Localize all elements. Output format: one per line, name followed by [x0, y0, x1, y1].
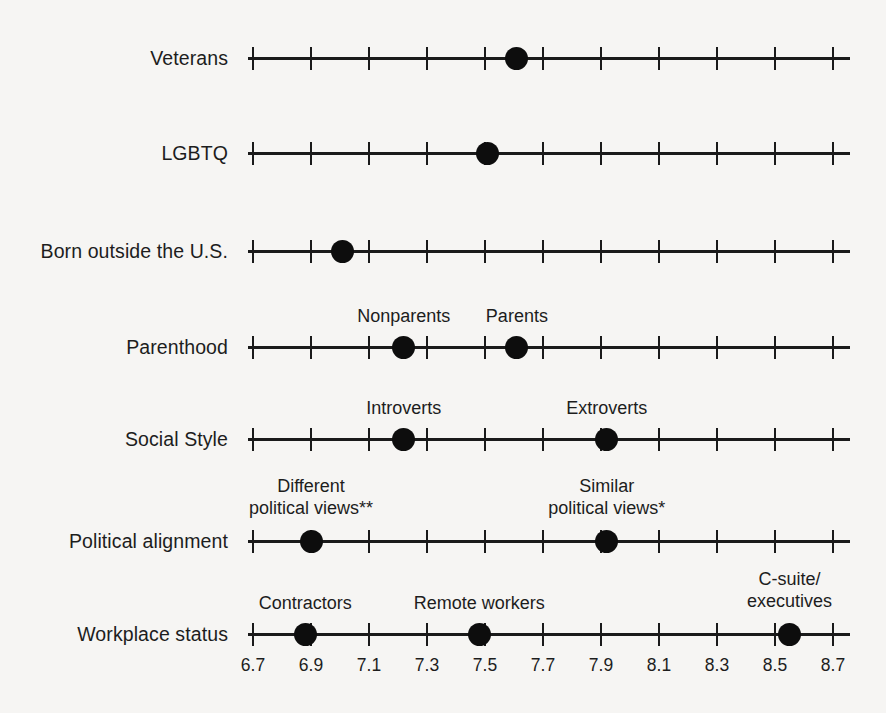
data-point-label-line1: Different — [277, 476, 345, 496]
x-tick-label: 8.3 — [705, 655, 729, 676]
axis-tick — [774, 428, 777, 451]
row-axis-line — [248, 438, 850, 441]
data-point-marker[interactable] — [331, 240, 354, 263]
axis-tick — [832, 142, 835, 165]
axis-tick — [484, 428, 487, 451]
x-tick-label: 7.7 — [531, 655, 555, 676]
axis-tick — [832, 47, 835, 70]
row-axis-line — [248, 57, 850, 60]
axis-tick — [310, 336, 313, 359]
axis-tick — [716, 142, 719, 165]
axis-tick — [600, 47, 603, 70]
axis-tick — [774, 142, 777, 165]
x-tick-label: 7.1 — [357, 655, 381, 676]
data-point-label-line1: Contractors — [259, 593, 352, 613]
x-tick-label: 8.5 — [763, 655, 787, 676]
axis-tick — [368, 623, 371, 646]
axis-tick — [658, 428, 661, 451]
axis-tick — [658, 623, 661, 646]
axis-tick — [716, 428, 719, 451]
axis-tick — [716, 530, 719, 553]
data-point-label-line1: C-suite/ — [758, 569, 820, 589]
data-point-marker[interactable] — [300, 530, 323, 553]
axis-tick — [368, 530, 371, 553]
data-point-marker[interactable] — [505, 336, 528, 359]
axis-tick — [252, 530, 255, 553]
axis-tick — [310, 142, 313, 165]
axis-tick — [484, 47, 487, 70]
data-point-label-line2: political views* — [548, 497, 665, 519]
data-point-label-line1: Extroverts — [566, 398, 647, 418]
axis-tick — [716, 240, 719, 263]
data-point-marker[interactable] — [595, 530, 618, 553]
axis-tick — [658, 47, 661, 70]
axis-tick — [252, 47, 255, 70]
data-point-marker[interactable] — [392, 336, 415, 359]
data-point-label: Parents — [486, 305, 548, 327]
axis-tick — [600, 623, 603, 646]
axis-tick — [368, 336, 371, 359]
axis-tick — [832, 336, 835, 359]
data-point-marker[interactable] — [392, 428, 415, 451]
axis-tick — [658, 240, 661, 263]
row-label-social-style: Social Style — [125, 428, 228, 451]
x-tick-label: 7.9 — [589, 655, 613, 676]
axis-tick — [542, 47, 545, 70]
data-point-label: Similarpolitical views* — [548, 475, 665, 519]
row-axis-line — [248, 540, 850, 543]
axis-tick — [600, 336, 603, 359]
axis-tick — [600, 240, 603, 263]
axis-tick — [774, 336, 777, 359]
row-label-lgbtq: LGBTQ — [161, 142, 228, 165]
data-point-label-line1: Remote workers — [414, 593, 545, 613]
data-point-label-line2: executives — [747, 590, 832, 612]
axis-tick — [774, 623, 777, 646]
data-point-label: Remote workers — [414, 592, 545, 614]
data-point-label: C-suite/executives — [747, 568, 832, 612]
axis-tick — [368, 428, 371, 451]
axis-tick — [832, 530, 835, 553]
axis-tick — [542, 336, 545, 359]
axis-tick — [368, 240, 371, 263]
axis-tick — [252, 623, 255, 646]
x-tick-label: 8.7 — [821, 655, 845, 676]
row-axis-line — [248, 346, 850, 349]
data-point-label-line1: Introverts — [366, 398, 441, 418]
data-point-label-line1: Parents — [486, 306, 548, 326]
axis-tick — [426, 428, 429, 451]
axis-tick — [600, 142, 603, 165]
data-point-marker[interactable] — [595, 428, 618, 451]
axis-tick — [658, 530, 661, 553]
axis-tick — [368, 47, 371, 70]
data-point-label: Differentpolitical views** — [249, 475, 373, 519]
axis-tick — [368, 142, 371, 165]
axis-tick — [426, 623, 429, 646]
axis-tick — [252, 142, 255, 165]
data-point-label: Nonparents — [357, 305, 450, 327]
data-point-marker[interactable] — [294, 623, 317, 646]
axis-tick — [252, 428, 255, 451]
axis-tick — [310, 428, 313, 451]
data-point-label-line2: political views** — [249, 497, 373, 519]
row-axis-line — [248, 152, 850, 155]
data-point-label: Introverts — [366, 397, 441, 419]
dot-plot-chart: VeteransLGBTQBorn outside the U.S.Parent… — [0, 0, 886, 713]
data-point-marker[interactable] — [468, 623, 491, 646]
data-point-label: Contractors — [259, 592, 352, 614]
axis-tick — [542, 428, 545, 451]
x-tick-label: 7.3 — [415, 655, 439, 676]
axis-tick — [426, 240, 429, 263]
axis-tick — [658, 336, 661, 359]
x-tick-label: 8.1 — [647, 655, 671, 676]
axis-tick — [484, 336, 487, 359]
axis-tick — [542, 530, 545, 553]
data-point-marker[interactable] — [476, 142, 499, 165]
data-point-marker[interactable] — [778, 623, 801, 646]
axis-tick — [426, 530, 429, 553]
axis-tick — [716, 336, 719, 359]
data-point-marker[interactable] — [505, 47, 528, 70]
axis-tick — [484, 240, 487, 263]
data-point-label-line1: Similar — [579, 476, 634, 496]
axis-tick — [310, 47, 313, 70]
axis-tick — [716, 623, 719, 646]
